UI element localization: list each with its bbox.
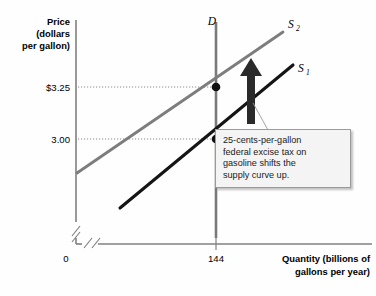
y-axis-title-line2: (dollars (36, 28, 70, 39)
curve-label-D: D (207, 15, 217, 27)
curve-label-S2: S (288, 18, 294, 30)
x-tick-label-144: 144 (208, 253, 225, 264)
curve-label-S1-subscript: 1 (306, 68, 310, 77)
x-axis-title-line1: Quantity (billions of (282, 253, 371, 264)
y-axis-title-line3: per gallon) (22, 40, 70, 51)
tax-callout-text: 25-cents-per-gallon federal excise tax o… (223, 135, 344, 181)
curve-label-S1: S (298, 62, 304, 74)
x-axis-break-mark-1 (84, 238, 92, 248)
y-axis-break-mark-1 (72, 226, 80, 236)
origin-label: 0 (63, 253, 68, 264)
y-tick-label-300: 3.00 (51, 134, 70, 145)
y-tick-label-325: $3.25 (46, 82, 70, 93)
supply-demand-chart: Price (dollars per gallon) $3.25 3.00 0 … (0, 0, 376, 296)
y-axis-title-line1: Price (47, 16, 70, 27)
x-axis-break-mark-2 (92, 238, 100, 248)
x-axis-title-line2: gallons per year) (295, 266, 370, 277)
callout-leader-line (253, 103, 268, 130)
equilibrium-point-after-tax (212, 83, 221, 92)
tax-callout-box: 25-cents-per-gallon federal excise tax o… (215, 129, 351, 188)
curve-label-S2-subscript: 2 (296, 24, 300, 33)
